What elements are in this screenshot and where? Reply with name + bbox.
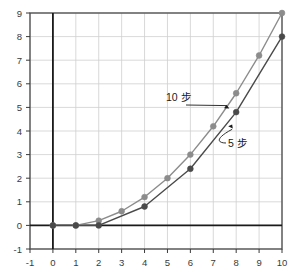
data-point-marker [50, 223, 56, 229]
data-point-marker [119, 208, 125, 214]
annotation-label-10-steps: 10 步 [166, 91, 191, 103]
data-point-marker [187, 166, 193, 172]
y-tick-label: 5 [17, 102, 22, 113]
data-point-marker [187, 152, 193, 158]
data-point-marker [142, 204, 148, 210]
y-tick-label: 3 [17, 149, 22, 160]
data-point-marker [256, 53, 262, 59]
x-tick-label: 3 [119, 257, 124, 268]
line-chart: -1012345678910 -10123456789 10 步 5 步 [0, 0, 289, 278]
x-tick-label: 4 [142, 257, 147, 268]
data-point-marker [73, 223, 79, 229]
y-tick-label: 9 [17, 8, 22, 19]
y-tick-label: -1 [14, 244, 22, 255]
x-tick-label: 0 [50, 257, 55, 268]
data-point-marker [233, 90, 239, 96]
data-point-marker [210, 123, 216, 129]
x-tick-label: 5 [165, 257, 170, 268]
x-tick-label: 10 [277, 257, 288, 268]
data-point-marker [165, 175, 171, 181]
data-point-marker [233, 109, 239, 115]
y-tick-label: 6 [17, 78, 22, 89]
x-tick-label: 6 [188, 257, 193, 268]
x-tick-label: 7 [211, 257, 216, 268]
chart-figure: -1012345678910 -10123456789 10 步 5 步 [0, 0, 289, 278]
y-tick-label: 7 [17, 55, 22, 66]
y-tick-label: 4 [17, 126, 22, 137]
annotation-label-5-steps: 5 步 [228, 137, 247, 149]
y-tick-label: 1 [17, 196, 22, 207]
data-point-marker [96, 223, 102, 229]
x-tick-label: 8 [234, 257, 239, 268]
data-point-marker [142, 194, 148, 200]
y-tick-label: 2 [17, 173, 22, 184]
data-point-marker [279, 10, 285, 16]
x-tick-label: -1 [26, 257, 34, 268]
x-tick-label: 1 [73, 257, 78, 268]
y-tick-label: 8 [17, 31, 22, 42]
x-tick-label: 9 [256, 257, 261, 268]
data-point-marker [279, 34, 285, 40]
x-tick-label: 2 [96, 257, 101, 268]
y-tick-label: 0 [17, 220, 22, 231]
